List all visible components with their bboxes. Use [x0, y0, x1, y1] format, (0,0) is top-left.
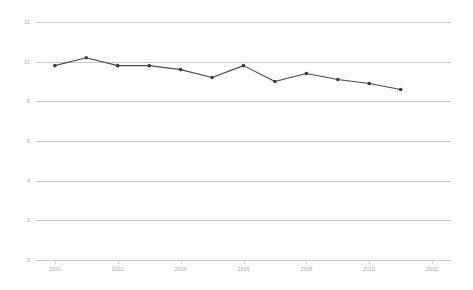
data-point-marker: [367, 82, 371, 86]
data-point-marker: [210, 76, 214, 80]
line-chart: 024681012 2000200220042006200820102012: [0, 0, 473, 290]
data-point-marker: [336, 78, 340, 82]
data-point-marker: [53, 64, 57, 68]
data-point-marker: [179, 68, 183, 72]
data-series-layer: [0, 0, 473, 290]
series-line: [55, 58, 401, 90]
data-point-marker: [116, 64, 120, 68]
plot-area: 024681012 2000200220042006200820102012: [0, 0, 473, 290]
data-point-marker: [85, 56, 89, 60]
data-point-marker: [242, 64, 246, 68]
data-point-marker: [305, 72, 309, 76]
data-point-marker: [273, 80, 277, 84]
data-point-marker: [399, 88, 403, 92]
series-markers: [53, 56, 402, 91]
data-point-marker: [147, 64, 151, 68]
